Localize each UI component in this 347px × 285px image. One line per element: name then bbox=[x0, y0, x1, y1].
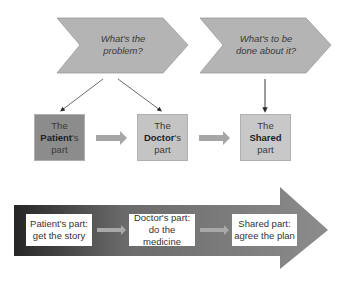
shared-part-box: The Shared part bbox=[240, 114, 291, 161]
shared-part-prefix: The bbox=[257, 120, 273, 132]
flow-step-doctor-line1: Doctor's part: bbox=[134, 212, 190, 224]
flow-step-patient-line2: get the story bbox=[33, 230, 85, 242]
doctor-part-last: part bbox=[154, 144, 170, 156]
doctor-part-prefix: The bbox=[154, 120, 170, 132]
question-problem-line2: problem? bbox=[82, 45, 164, 57]
patient-part-prefix: The bbox=[51, 120, 67, 132]
shared-part-last: part bbox=[257, 144, 273, 156]
connector-line-to-doctor bbox=[118, 79, 160, 110]
question-problem-line1: What's the bbox=[82, 33, 164, 45]
flow-step-doctor: Doctor's part: do the medicine bbox=[129, 214, 195, 246]
doctor-part-title: Doctor's bbox=[144, 132, 181, 144]
flow-step-shared-line2: agree the plan bbox=[234, 230, 295, 242]
doctor-part-box: The Doctor's part bbox=[137, 114, 188, 161]
question-action-line1: What's to be bbox=[225, 33, 307, 45]
patient-part-box: The Patient's part bbox=[34, 114, 85, 161]
flow-step-shared: Shared part: agree the plan bbox=[232, 214, 297, 246]
patient-part-title: Patient's bbox=[40, 132, 78, 144]
flow-step-shared-line1: Shared part: bbox=[238, 218, 290, 230]
flow-step-patient: Patient's part: get the story bbox=[26, 214, 92, 246]
question-action-line2: done about it? bbox=[225, 45, 307, 57]
shared-part-title: Shared bbox=[249, 132, 281, 144]
question-action: What's to be done about it? bbox=[225, 33, 307, 57]
flow-step-doctor-line2: do the medicine bbox=[129, 224, 195, 248]
question-problem: What's the problem? bbox=[82, 33, 164, 57]
arrow-patient-to-doctor bbox=[96, 131, 127, 145]
arrow-doctor-to-shared bbox=[199, 131, 230, 145]
flow-step-patient-line1: Patient's part: bbox=[30, 218, 88, 230]
connector-line-to-patient bbox=[62, 79, 103, 110]
patient-part-last: part bbox=[51, 144, 67, 156]
